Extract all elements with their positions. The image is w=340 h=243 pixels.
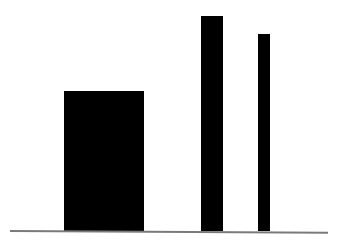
bar-1: [64, 91, 144, 231]
bar-3: [258, 34, 270, 231]
x-axis-baseline: [10, 230, 328, 233]
bar-chart: [0, 0, 340, 243]
bar-2: [201, 16, 223, 231]
